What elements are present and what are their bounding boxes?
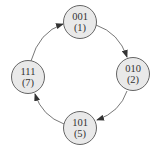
state-node-001: 001 (1): [64, 6, 97, 39]
edge-101-to-111: [35, 94, 64, 124]
node-decimal-label: (2): [127, 74, 140, 86]
edge-001-to-010: [96, 25, 127, 57]
state-diagram: 001 (1) 010 (2) 101 (5) 111 (7): [0, 0, 158, 150]
node-binary-label: 001: [72, 11, 88, 22]
edge-111-to-001: [31, 24, 63, 61]
node-binary-label: 010: [125, 63, 141, 74]
node-binary-label: 101: [72, 117, 88, 128]
state-node-111: 111 (7): [12, 61, 45, 94]
node-decimal-label: (7): [22, 77, 35, 89]
node-binary-label: 111: [21, 66, 36, 77]
node-decimal-label: (5): [74, 128, 87, 140]
node-decimal-label: (1): [74, 22, 87, 34]
state-node-101: 101 (5): [64, 112, 97, 145]
state-node-010: 010 (2): [117, 58, 150, 91]
edge-010-to-101: [97, 91, 127, 120]
